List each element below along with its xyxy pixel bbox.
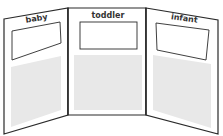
panel-center-content-area xyxy=(74,55,142,110)
panel-center-label-box xyxy=(80,22,137,49)
panel-center-label: toddler xyxy=(92,11,125,20)
trifold-board-diagram: baby toddler infant xyxy=(0,0,223,136)
panel-center: toddler xyxy=(68,8,146,115)
panel-left: baby xyxy=(4,8,68,134)
panel-right: infant xyxy=(146,8,218,134)
